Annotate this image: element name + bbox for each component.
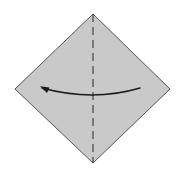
paper-diamond-shape <box>15 14 170 163</box>
origami-diagram <box>0 0 178 173</box>
origami-diagram-canvas <box>0 0 178 173</box>
